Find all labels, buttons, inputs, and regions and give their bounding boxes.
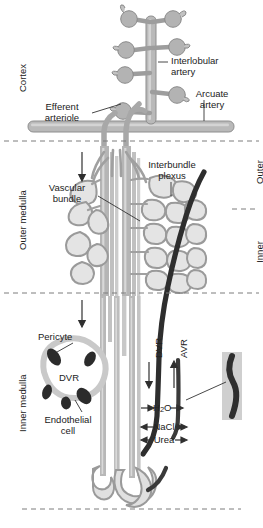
label-efferent-arteriole: Efferent arteriole	[31, 101, 93, 123]
label-arcuate-artery: Arcuate artery	[177, 88, 247, 110]
label-avr-axis: AVR	[178, 339, 189, 358]
vasculature-artwork	[0, 0, 263, 528]
zone-label-outer-medulla: Outer medulla	[17, 190, 28, 250]
glomerulus	[169, 39, 190, 56]
inner-medulla-vasa-recta	[100, 296, 141, 478]
label-interbundle-plexus: Interbundle plexus	[136, 159, 208, 181]
flow-arrow-dvr-axis	[146, 362, 152, 388]
label-dvr-inset: DVR	[59, 372, 79, 383]
label-water-exchange: H2O	[153, 402, 171, 415]
interlobular-artery	[146, 16, 156, 124]
label-pericyte: Pericyte	[38, 331, 72, 342]
label-nacl-exchange: NaCl	[152, 421, 176, 432]
leader-avr-inset	[186, 382, 226, 400]
urea-arrow-right	[175, 437, 187, 443]
renal-microcirculation-figure: Cortex Outer medulla Inner medulla Outer…	[0, 0, 263, 528]
nacl-arrow-right	[175, 424, 187, 430]
water-arrow-right	[170, 405, 183, 411]
inner-stripe-line1: Inner	[255, 226, 263, 278]
zone-label-inner-medulla: Inner medulla	[17, 374, 28, 432]
glomerulus	[165, 11, 186, 28]
zone-label-inner-stripe: Inner stripe	[234, 226, 263, 278]
glomerulus	[113, 42, 134, 59]
flow-arrow-outer-medulla	[79, 152, 85, 181]
label-vascular-bundle: Vascular bundle	[36, 182, 98, 204]
outer-stripe-line1: Outer	[255, 146, 263, 198]
label-endothelial-cell: Endothelial cell	[31, 414, 105, 436]
label-urea-exchange: Urea	[152, 434, 176, 445]
glomerulus	[112, 67, 133, 84]
zone-label-outer-stripe: Outer stripe	[234, 146, 263, 198]
water-formula-pre: H	[153, 402, 160, 413]
glomerulus	[120, 5, 137, 28]
flow-arrow-avr-axis	[171, 361, 177, 388]
water-formula-post: O	[164, 402, 171, 413]
label-interlobular-artery: Interlobular artery	[171, 55, 219, 77]
label-dvr-axis: DVR	[153, 338, 164, 358]
zone-label-cortex: Cortex	[17, 64, 28, 92]
avr-longitudinal-inset	[222, 352, 242, 420]
flow-arrow-inner-medulla	[79, 300, 85, 327]
